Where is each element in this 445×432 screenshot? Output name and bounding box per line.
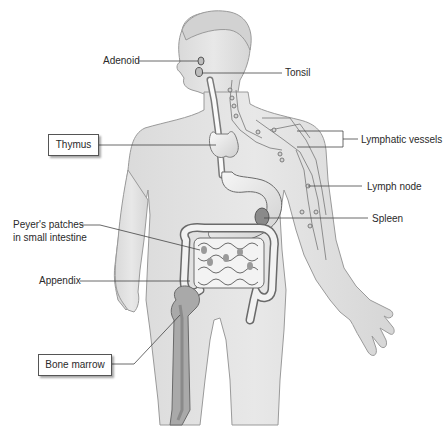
label-peyers-patches-line1: Peyer's patches: [13, 219, 84, 231]
label-peyers-patches-line2: in small intestine: [13, 232, 87, 244]
label-bone-marrow: Bone marrow: [38, 354, 112, 376]
body-silhouette: [114, 13, 394, 425]
lymphatic-diagram: Adenoid Tonsil Thymus Lymphatic vessels …: [0, 0, 445, 432]
label-lymphatic-vessels: Lymphatic vessels: [361, 134, 442, 146]
small-intestine: [194, 238, 264, 288]
adenoid-marker: [198, 57, 204, 65]
label-tonsil: Tonsil: [285, 67, 311, 79]
label-thymus: Thymus: [48, 134, 99, 156]
label-spleen: Spleen: [372, 213, 403, 225]
thymus-organ: [209, 132, 238, 158]
label-adenoid: Adenoid: [103, 55, 140, 67]
tonsil-marker: [196, 68, 203, 77]
label-lymph-node: Lymph node: [367, 181, 422, 193]
spleen-organ: [255, 208, 269, 226]
label-appendix: Appendix: [39, 275, 81, 287]
